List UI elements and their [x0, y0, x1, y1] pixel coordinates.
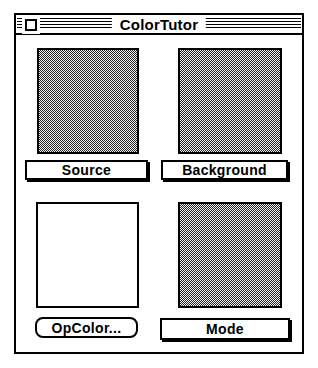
opcolor-button[interactable]: OpColor... [35, 317, 138, 338]
close-box-icon[interactable] [25, 19, 37, 31]
mode-button[interactable]: Mode [160, 318, 290, 340]
background-button[interactable]: Background [161, 160, 288, 180]
title-bar[interactable]: ColorTutor [16, 15, 302, 35]
opcolor-swatch [36, 202, 139, 308]
source-color-swatch [37, 48, 139, 154]
app-window: ColorTutor Source Background OpColor... … [14, 13, 304, 354]
mode-swatch [178, 202, 282, 308]
window-title: ColorTutor [112, 16, 206, 33]
source-button[interactable]: Source [25, 160, 148, 180]
background-color-swatch [178, 48, 282, 154]
